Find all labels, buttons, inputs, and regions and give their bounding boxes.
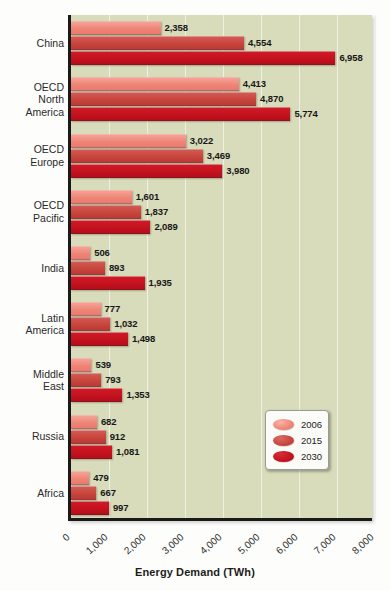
bar-value-label: 777 xyxy=(105,301,121,316)
bar-value-label: 682 xyxy=(101,414,117,429)
x-axis-title: Energy Demand (TWh) xyxy=(0,566,390,578)
bar-group: 479667997 xyxy=(71,471,372,516)
bar-group: 4,4134,8705,774 xyxy=(71,77,372,122)
legend-item[interactable]: 2030 xyxy=(273,449,322,463)
bar-2015[interactable] xyxy=(71,430,106,444)
bar-2006[interactable] xyxy=(71,358,91,372)
bar-2030[interactable] xyxy=(71,332,128,346)
bar-2006[interactable] xyxy=(71,302,101,316)
chart-figure: 2,3584,5546,9584,4134,8705,7743,0223,469… xyxy=(0,0,390,591)
bar-2006[interactable] xyxy=(71,246,90,260)
bar-value-label: 1,498 xyxy=(132,331,155,346)
bar-2030[interactable] xyxy=(71,276,145,290)
category-label: China xyxy=(37,37,64,50)
bar-value-label: 6,958 xyxy=(339,50,362,65)
bar-row: 539 xyxy=(71,358,372,372)
bar-value-label: 1,837 xyxy=(145,204,168,219)
category-label: Latin America xyxy=(25,312,64,337)
bar-value-label: 1,032 xyxy=(114,316,137,331)
bar-2006[interactable] xyxy=(71,134,186,148)
bar-value-label: 3,022 xyxy=(190,133,213,148)
bar-group: 5397931,353 xyxy=(71,358,372,403)
bar-value-label: 4,554 xyxy=(248,35,271,50)
bar-value-label: 997 xyxy=(113,500,129,515)
bar-2015[interactable] xyxy=(71,149,203,163)
category-label: Africa xyxy=(37,487,64,500)
bar-row: 1,935 xyxy=(71,276,372,290)
bar-2030[interactable] xyxy=(71,107,290,121)
bar-row: 2,358 xyxy=(71,21,372,35)
bar-group: 7771,0321,498 xyxy=(71,302,372,347)
bar-2015[interactable] xyxy=(71,486,96,500)
bar-value-label: 506 xyxy=(94,245,110,260)
bar-row: 3,469 xyxy=(71,149,372,163)
bar-value-label: 4,413 xyxy=(243,76,266,91)
bar-2030[interactable] xyxy=(71,220,150,234)
bar-2015[interactable] xyxy=(71,205,141,219)
category-label: Middle East xyxy=(33,368,64,393)
bar-row: 4,413 xyxy=(71,77,372,91)
bar-2006[interactable] xyxy=(71,190,132,204)
bar-2015[interactable] xyxy=(71,261,105,275)
bar-2015[interactable] xyxy=(71,36,244,50)
bar-2030[interactable] xyxy=(71,51,335,65)
bar-2006[interactable] xyxy=(71,471,89,485)
bar-row: 3,022 xyxy=(71,134,372,148)
bar-2030[interactable] xyxy=(71,164,222,178)
bar-value-label: 2,358 xyxy=(165,20,188,35)
bar-2006[interactable] xyxy=(71,77,239,91)
bar-row: 2,089 xyxy=(71,220,372,234)
bar-row: 6,958 xyxy=(71,51,372,65)
bar-2006[interactable] xyxy=(71,21,161,35)
bar-2015[interactable] xyxy=(71,373,101,387)
gridline xyxy=(375,15,376,518)
bar-value-label: 479 xyxy=(93,470,109,485)
bar-2015[interactable] xyxy=(71,317,110,331)
bar-row: 4,554 xyxy=(71,36,372,50)
category-label: OECD Pacific xyxy=(33,199,64,224)
bar-2015[interactable] xyxy=(71,92,256,106)
bar-group: 1,6011,8372,089 xyxy=(71,190,372,235)
category-label: OECD Europe xyxy=(30,143,64,168)
category-label: OECD North America xyxy=(25,81,64,119)
bar-value-label: 3,469 xyxy=(207,148,230,163)
bar-row: 5,774 xyxy=(71,107,372,121)
bar-value-label: 3,980 xyxy=(226,163,249,178)
bar-value-label: 5,774 xyxy=(294,106,317,121)
bar-row: 793 xyxy=(71,373,372,387)
bar-group: 2,3584,5546,958 xyxy=(71,21,372,66)
bar-group: 3,0223,4693,980 xyxy=(71,134,372,179)
bar-value-label: 912 xyxy=(110,429,126,444)
bar-row: 3,980 xyxy=(71,164,372,178)
legend-label: 2006 xyxy=(301,419,322,430)
legend-swatch-2030-icon xyxy=(273,451,294,462)
bar-row: 667 xyxy=(71,486,372,500)
category-label: Russia xyxy=(32,430,64,443)
bar-row: 506 xyxy=(71,246,372,260)
bar-value-label: 539 xyxy=(95,357,111,372)
bar-value-label: 1,353 xyxy=(126,387,149,402)
bar-row: 777 xyxy=(71,302,372,316)
bar-row: 893 xyxy=(71,261,372,275)
bar-value-label: 4,870 xyxy=(260,91,283,106)
bar-value-label: 1,935 xyxy=(149,275,172,290)
category-label: India xyxy=(41,262,64,275)
bar-2030[interactable] xyxy=(71,501,109,515)
legend-item[interactable]: 2015 xyxy=(273,433,322,447)
bar-2030[interactable] xyxy=(71,445,112,459)
bar-value-label: 1,081 xyxy=(116,444,139,459)
legend-label: 2030 xyxy=(301,451,322,462)
bar-value-label: 893 xyxy=(109,260,125,275)
bar-2006[interactable] xyxy=(71,415,97,429)
bar-row: 1,601 xyxy=(71,190,372,204)
bar-value-label: 667 xyxy=(100,485,116,500)
bar-row: 1,353 xyxy=(71,388,372,402)
bar-row: 479 xyxy=(71,471,372,485)
bar-value-label: 1,601 xyxy=(136,189,159,204)
legend-swatch-2006-icon xyxy=(273,419,294,430)
bar-row: 997 xyxy=(71,501,372,515)
legend-swatch-2015-icon xyxy=(273,435,294,446)
bar-value-label: 793 xyxy=(105,372,121,387)
legend-item[interactable]: 2006 xyxy=(273,417,322,431)
bar-2030[interactable] xyxy=(71,388,122,402)
